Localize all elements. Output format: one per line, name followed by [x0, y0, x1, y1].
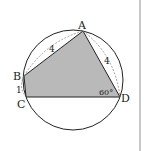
- edge-label-ab: 4: [49, 44, 55, 54]
- point-label-c: C: [17, 98, 25, 111]
- divider-line: [139, 0, 141, 151]
- point-label-b: B: [13, 70, 21, 83]
- angle-label-d: 60°: [99, 88, 113, 97]
- point-label-d: D: [121, 92, 130, 105]
- edge-label-bc: 1: [16, 85, 22, 95]
- edge-label-ad: 4: [104, 56, 110, 66]
- geometry-figure: A B C D 4 4 1 60°: [0, 0, 144, 151]
- point-label-a: A: [77, 19, 87, 32]
